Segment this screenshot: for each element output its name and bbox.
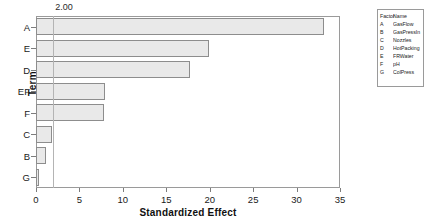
legend-factor-d: D bbox=[380, 44, 393, 52]
legend-name-e: FRWater bbox=[393, 52, 422, 60]
y-tick-mark bbox=[31, 156, 36, 157]
x-tick-mark bbox=[297, 188, 298, 192]
legend-row: DHotPacking bbox=[380, 44, 422, 52]
bar-f bbox=[36, 104, 104, 121]
y-tick-label-ef: EF bbox=[6, 86, 30, 97]
bar-e bbox=[36, 40, 209, 57]
y-tick-label-e: E bbox=[6, 43, 30, 54]
legend-factor-f: F bbox=[380, 60, 393, 68]
y-tick-label-d: D bbox=[6, 64, 30, 75]
legend-row: BGasPressIn bbox=[380, 28, 422, 36]
y-tick-label-a: A bbox=[6, 21, 30, 32]
legend-factor-g: G bbox=[380, 68, 393, 76]
legend-row: AGasFlow bbox=[380, 20, 422, 28]
y-tick-mark bbox=[31, 134, 36, 135]
y-tick-label-f: F bbox=[6, 107, 30, 118]
bar-d bbox=[36, 61, 190, 78]
y-tick-label-b: B bbox=[6, 150, 30, 161]
x-tick-mark bbox=[340, 188, 341, 192]
legend-name-a: GasFlow bbox=[393, 20, 422, 28]
y-tick-mark bbox=[31, 70, 36, 71]
y-tick-mark bbox=[31, 48, 36, 49]
legend-header-factor: Factor bbox=[380, 12, 393, 20]
bar-c bbox=[36, 126, 52, 143]
x-tick-mark bbox=[36, 188, 37, 192]
bar-g bbox=[36, 169, 39, 186]
x-tick-mark bbox=[166, 188, 167, 192]
legend-header-name: Name bbox=[393, 12, 422, 20]
legend-row: EFRWater bbox=[380, 52, 422, 60]
legend-factor-e: E bbox=[380, 52, 393, 60]
x-tick-mark bbox=[210, 188, 211, 192]
legend-factor-a: A bbox=[380, 20, 393, 28]
x-tick-label-10: 10 bbox=[118, 194, 129, 205]
legend-name-b: GasPressIn bbox=[393, 28, 422, 36]
x-tick-mark bbox=[253, 188, 254, 192]
legend-name-d: HotPacking bbox=[393, 44, 422, 52]
legend-header-row: FactorName bbox=[380, 12, 422, 20]
legend-name-c: Nozzles bbox=[393, 36, 422, 44]
legend-row: CNozzles bbox=[380, 36, 422, 44]
legend: FactorNameAGasFlowBGasPressInCNozzlesDHo… bbox=[377, 9, 424, 87]
x-tick-label-20: 20 bbox=[204, 194, 215, 205]
y-tick-label-c: C bbox=[6, 129, 30, 140]
x-tick-label-30: 30 bbox=[291, 194, 302, 205]
reference-line-label: 2.00 bbox=[55, 2, 73, 12]
x-tick-label-15: 15 bbox=[161, 194, 172, 205]
legend-row: GColPress bbox=[380, 68, 422, 76]
reference-line bbox=[53, 16, 54, 188]
y-tick-mark bbox=[31, 177, 36, 178]
bar-ef bbox=[36, 83, 105, 100]
x-tick-mark bbox=[123, 188, 124, 192]
x-tick-label-35: 35 bbox=[335, 194, 346, 205]
x-tick-label-5: 5 bbox=[77, 194, 82, 205]
y-tick-mark bbox=[31, 113, 36, 114]
legend-name-f: pH bbox=[393, 60, 422, 68]
legend-factor-c: C bbox=[380, 36, 393, 44]
y-tick-mark bbox=[31, 91, 36, 92]
y-tick-label-g: G bbox=[6, 172, 30, 183]
legend-row: FpH bbox=[380, 60, 422, 68]
x-tick-label-0: 0 bbox=[33, 194, 38, 205]
x-axis-title: Standardized Effect bbox=[36, 207, 340, 218]
y-tick-mark bbox=[31, 27, 36, 28]
x-tick-label-25: 25 bbox=[248, 194, 259, 205]
x-tick-mark bbox=[79, 188, 80, 192]
bar-series bbox=[36, 16, 340, 188]
legend-factor-b: B bbox=[380, 28, 393, 36]
bar-a bbox=[36, 18, 324, 35]
legend-name-g: ColPress bbox=[393, 68, 422, 76]
bar-b bbox=[36, 147, 46, 164]
pareto-chart: Term 2.00 AEDEFFCBG 05101520253035 Stand… bbox=[0, 0, 426, 224]
